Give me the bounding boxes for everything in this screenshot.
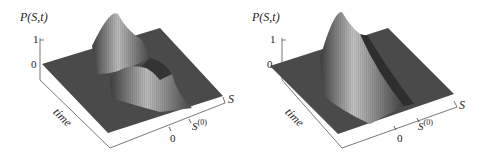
s-axis-label: S (228, 92, 234, 107)
z-tick-0: 0 (267, 58, 273, 70)
x-tick-zero: 0 (397, 132, 403, 144)
z-axis-label: P(S,t) (252, 10, 280, 25)
z-tick-1: 1 (270, 33, 276, 45)
x-tick-s0: S(0) (192, 118, 207, 132)
x-tick-s0: S(0) (418, 118, 433, 132)
x-tick-zero: 0 (170, 132, 176, 144)
s-axis-label: S (459, 98, 465, 113)
surface-plot-left: P(S,t) 1 0 time S 0 S(0) (0, 0, 242, 159)
z-tick-1: 1 (33, 33, 39, 45)
z-tick-0: 0 (31, 58, 37, 70)
z-axis-label: P(S,t) (20, 10, 48, 25)
surface-plot-right: P(S,t) 1 0 time S 0 S(0) (242, 0, 484, 159)
